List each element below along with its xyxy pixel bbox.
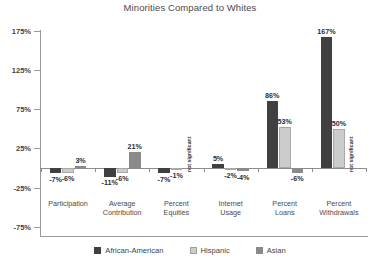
y-axis-tick-label: 125% [0, 66, 31, 75]
legend-item[interactable]: African-American [94, 246, 163, 255]
legend-item[interactable]: Asian [256, 246, 286, 255]
y-axis-tick [34, 227, 40, 228]
y-axis-tick-label: 175% [0, 27, 31, 36]
x-axis-tick [366, 168, 367, 172]
x-axis-category-label: Participation [41, 200, 95, 209]
y-axis-tick [34, 31, 40, 32]
bar-chart: Minorities Compared to Whites 175%125%75… [0, 0, 380, 268]
bar-value-label: 50% [326, 119, 352, 128]
x-axis-category-label: Average Contribution [95, 200, 149, 217]
bar [129, 152, 141, 168]
x-axis-category-label: Percent Equities [149, 200, 203, 217]
x-axis-tick [149, 168, 150, 172]
y-axis-tick-label: 25% [0, 144, 31, 153]
x-axis-category-label: Percent Withdrawals [312, 200, 366, 217]
legend-swatch-icon [190, 247, 197, 254]
x-axis-tick [312, 168, 313, 172]
y-axis-tick [34, 148, 40, 149]
bar [333, 129, 345, 168]
chart-legend: African-AmericanHispanicAsian [0, 246, 380, 255]
legend-label: Asian [267, 246, 286, 255]
x-axis-tick [95, 168, 96, 172]
bar [267, 101, 279, 168]
y-axis-tick-label: -75% [0, 223, 31, 232]
bar [225, 168, 237, 170]
bar-value-label: 86% [259, 91, 285, 100]
y-axis-tick-label: -25% [0, 184, 31, 193]
bar [321, 37, 333, 168]
bar-value-label: 53% [272, 117, 298, 126]
bar-value-label: 167% [313, 27, 339, 36]
legend-swatch-icon [256, 247, 263, 254]
bar [212, 164, 224, 168]
bar-value-label: -1% [163, 171, 189, 180]
bar-value-label: -6% [55, 174, 81, 183]
x-axis-category-label: Percent Loans [258, 200, 312, 217]
bar [75, 166, 87, 168]
bar [62, 168, 74, 173]
legend-item[interactable]: Hispanic [190, 246, 230, 255]
bar-value-label: 5% [205, 154, 231, 163]
legend-swatch-icon [94, 247, 101, 254]
not-significant-annotation: not significant [186, 137, 192, 172]
x-axis-tick [204, 168, 205, 172]
chart-title: Minorities Compared to Whites [0, 2, 380, 13]
x-axis-category-label: Internet Usage [204, 200, 258, 217]
bar [171, 168, 183, 170]
legend-label: African-American [105, 246, 163, 255]
x-axis-baseline [40, 236, 368, 237]
x-axis-tick [41, 168, 42, 172]
bar [279, 127, 291, 168]
bar-value-label: 21% [122, 142, 148, 151]
not-significant-annotation: not significant [348, 137, 354, 172]
bar-value-label: -6% [109, 174, 135, 183]
bar [50, 168, 62, 173]
x-axis-tick [258, 168, 259, 172]
bar-value-label: -4% [230, 173, 256, 182]
legend-label: Hispanic [201, 246, 230, 255]
y-axis-tick [34, 109, 40, 110]
bar-value-label: -6% [284, 174, 310, 183]
y-axis-tick [34, 188, 40, 189]
bar [292, 168, 304, 173]
y-axis-tick [34, 70, 40, 71]
bar-value-label: 3% [68, 156, 94, 165]
y-axis-tick-label: 75% [0, 105, 31, 114]
bar [117, 168, 129, 173]
